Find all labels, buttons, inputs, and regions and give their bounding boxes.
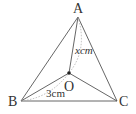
label-o: O [64,79,74,94]
center-point-o [67,71,71,75]
label-a: A [73,1,84,16]
triangle-diagram: A B C O xcm 3cm [0,0,136,114]
label-c: C [119,94,128,109]
measure-ob: 3cm [46,87,65,99]
label-b: B [8,94,17,109]
segment-oc [69,73,117,101]
measure-oa: xcm [74,44,93,56]
